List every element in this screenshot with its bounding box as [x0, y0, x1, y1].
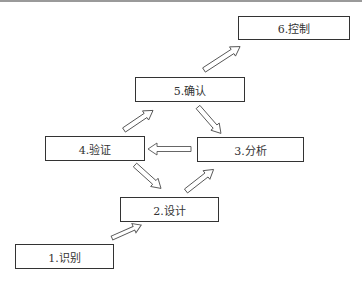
- arrow-4-to-2: [131, 161, 164, 193]
- node-2-design: 2.设计: [120, 197, 219, 222]
- node-label: 1.识别: [48, 249, 81, 265]
- node-label: 4.验证: [79, 141, 112, 157]
- node-5-confirm: 5.确认: [135, 77, 245, 102]
- node-label: 6.控制: [278, 20, 311, 36]
- node-label: 3.分析: [234, 142, 267, 158]
- node-4-verify: 4.验证: [45, 136, 145, 161]
- node-1-identify: 1.识别: [15, 244, 114, 269]
- arrow-3-to-4: [148, 143, 191, 155]
- node-label: 5.确认: [174, 82, 207, 98]
- node-label: 2.设计: [153, 202, 186, 218]
- arrow-5-to-3: [194, 103, 225, 137]
- arrow-5-to-6: [201, 42, 243, 75]
- arrow-4-to-5: [121, 106, 156, 135]
- arrow-2-to-3: [183, 165, 217, 195]
- node-3-analyze: 3.分析: [197, 137, 304, 162]
- node-6-control: 6.控制: [238, 16, 350, 40]
- arrow-1-to-2: [110, 220, 143, 242]
